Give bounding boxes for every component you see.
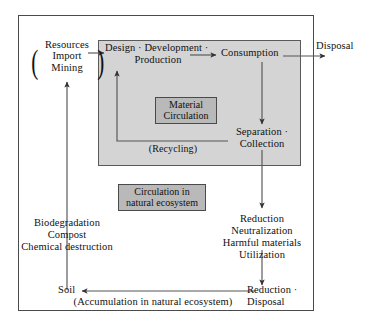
circulation-chip-line2: natural ecosystem [119,198,205,209]
node-chemical-destruction: Chemical destruction [21,242,113,253]
node-reduction-bottom: Reduction · [247,285,297,296]
material-circulation-chip: Material Circulation [155,97,217,124]
node-compost: Compost [48,230,87,241]
node-design-development: Design · Development · [105,43,208,54]
node-harmful-materials: Harmful materials [223,238,301,249]
circulation-natural-ecosystem-chip: Circulation in natural ecosystem [118,184,206,211]
node-collection: Collection [240,139,285,150]
diagram-canvas: Resources ( ) Import Mining Design · Dev… [0,0,369,330]
node-soil: Soil [58,285,75,296]
node-neutralization: Neutralization [231,226,292,237]
label-recycling: (Recycling) [149,144,197,154]
material-circulation-line1: Material [156,100,216,111]
material-circulation-line2: Circulation [156,111,216,122]
node-production: Production [134,55,181,66]
node-reduction: Reduction [240,214,284,225]
node-disposal-top: Disposal [316,41,354,52]
node-import: Import [52,51,81,62]
node-separation: Separation · [236,127,288,138]
paren-left-icon: ( [31,45,38,79]
label-accumulation: (Accumulation in natural ecosystem) [74,297,233,308]
node-consumption: Consumption [221,48,279,59]
node-disposal-bottom: Disposal [247,297,285,308]
paren-right-icon: ) [97,45,104,79]
node-biodegradation: Biodegradation [34,218,100,229]
node-mining: Mining [51,63,83,74]
circulation-chip-line1: Circulation in [119,187,205,198]
node-utilization: Utilization [239,250,285,261]
